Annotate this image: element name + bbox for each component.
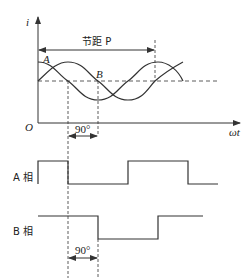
curve-b-label: B bbox=[96, 68, 103, 80]
origin-label: O bbox=[25, 121, 33, 133]
phase-b-label: B 相 bbox=[13, 225, 33, 237]
phase-b-square-wave bbox=[38, 216, 203, 239]
phase-shift-label-bottom: 90° bbox=[75, 244, 90, 256]
y-axis-label: i bbox=[26, 16, 29, 28]
phase-a-square-wave bbox=[38, 161, 218, 184]
x-axis-label: ωt bbox=[229, 126, 241, 138]
phase-a-label: A 相 bbox=[13, 171, 33, 183]
phase-shift-label-top: 90° bbox=[75, 123, 90, 135]
curve-a-label: A bbox=[42, 53, 50, 65]
diagram-canvas: i O ωt 节距 P A B 90° A 相 B 相 90° bbox=[0, 0, 249, 278]
pitch-label: 节距 P bbox=[82, 36, 111, 47]
